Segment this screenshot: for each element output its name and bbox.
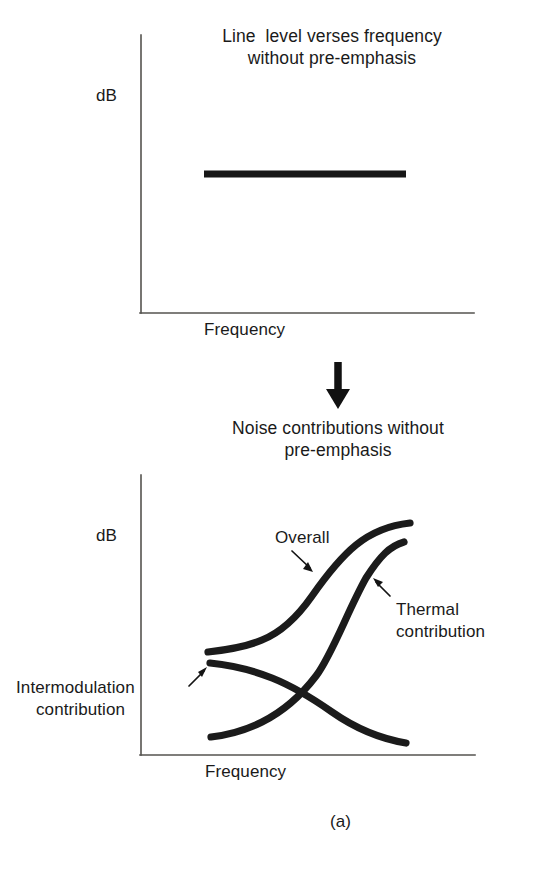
overall-pointer-arrow-icon <box>292 551 313 572</box>
bottom-panel-x-axis-label: Frequency <box>205 762 286 782</box>
top-panel-axes <box>140 35 474 313</box>
bottom-panel-title-line1: Noise contributions without <box>178 418 498 439</box>
top-panel-y-axis-label: dB <box>96 86 117 106</box>
flow-down-arrow-icon <box>326 362 350 409</box>
figure-container: Line level verses frequency without pre-… <box>0 0 541 870</box>
thermal-contribution-label-line1: Thermal <box>396 600 459 620</box>
top-panel-title-line2: without pre-emphasis <box>172 48 492 69</box>
bottom-panel-y-axis-label: dB <box>96 526 117 546</box>
overall-curve-label: Overall <box>275 528 330 548</box>
thermal-contribution-label-line2: contribution <box>396 622 485 642</box>
bottom-panel-title-line2: pre-emphasis <box>178 440 498 461</box>
intermodulation-contribution-label-line1: Intermodulation <box>16 678 135 698</box>
thermal-contribution-curve <box>211 542 404 737</box>
intermodulation-pointer-arrow-icon <box>189 667 207 686</box>
thermal-pointer-arrow-icon <box>373 578 390 596</box>
top-panel-x-axis-label: Frequency <box>204 320 285 340</box>
intermodulation-contribution-label-line2: contribution <box>36 700 125 720</box>
top-panel-title-line1: Line level verses frequency <box>172 26 492 47</box>
intermodulation-contribution-curve <box>210 663 406 743</box>
figure-caption: (a) <box>330 812 351 832</box>
